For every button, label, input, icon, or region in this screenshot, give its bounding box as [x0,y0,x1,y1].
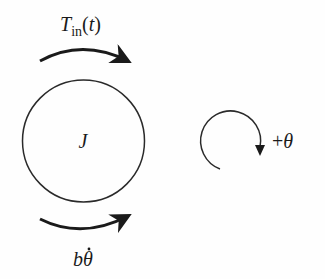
theta-dot-accent-icon [88,248,91,251]
positive-rotation-arrowhead-icon [255,145,265,156]
damping-torque-label: bθ [73,248,93,270]
diagram-canvas: Tin(t) J bθ +θ [0,0,325,279]
input-torque-label: Tin(t) [60,13,101,39]
positive-rotation-arc [201,111,261,169]
inertia-label: J [79,130,89,152]
sign-convention-label: +θ [272,130,293,152]
damping-torque-arrow-icon [40,216,128,229]
input-torque-arrow-icon [40,50,128,62]
diagram-svg: Tin(t) J bθ +θ [0,0,325,279]
